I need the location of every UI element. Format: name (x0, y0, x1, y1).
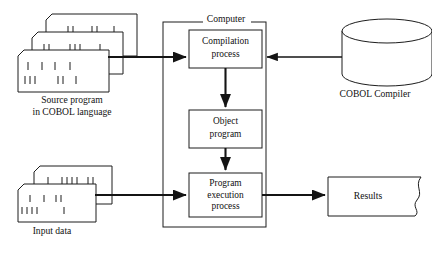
source-program-card-1 (18, 50, 109, 92)
input-data-card-stack: Input data (18, 166, 112, 236)
source-program-caption-line2: in COBOL language (32, 106, 111, 117)
program-execution-label-line2: execution (207, 190, 244, 200)
compilation-process-box: Compilation process (189, 30, 262, 68)
cylinder-top (342, 19, 432, 43)
cobol-compiler-cylinder: COBOL Compiler (340, 19, 432, 99)
program-execution-process-box: Program execution process (189, 173, 262, 217)
compilation-process-label-line1: Compilation (202, 36, 249, 46)
cobol-flow-diagram: Computer Compilation process Object prog… (0, 0, 432, 253)
results-label: Results (354, 190, 383, 201)
cobol-compiler-caption: COBOL Compiler (340, 88, 412, 99)
results-document: Results (328, 177, 421, 216)
program-execution-label-line1: Program (209, 178, 242, 188)
card-outline (18, 184, 96, 222)
object-program-label-line1: Object (213, 116, 238, 126)
object-program-label-line2: program (210, 129, 242, 139)
input-data-card-1 (18, 184, 96, 222)
input-data-caption: Input data (33, 225, 72, 236)
source-program-card-stack: Source program in COBOL language (18, 14, 137, 117)
compilation-process-label-line2: process (211, 49, 239, 59)
diagram-canvas: Computer Compilation process Object prog… (0, 0, 432, 253)
computer-label: Computer (207, 13, 246, 24)
object-program-box: Object program (189, 110, 262, 148)
card-outline (18, 50, 109, 92)
source-program-caption-line1: Source program (41, 94, 103, 105)
program-execution-label-line3: process (211, 201, 239, 211)
